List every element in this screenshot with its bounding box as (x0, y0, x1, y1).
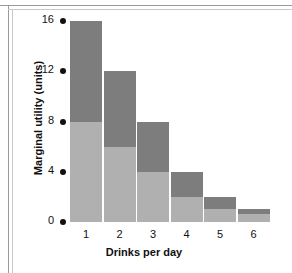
bar-5 (204, 197, 236, 222)
bar-segment-upper-4 (171, 172, 203, 197)
bar-segment-lower-1 (70, 122, 102, 223)
bar-segment-lower-2 (104, 147, 136, 222)
chart-figure: 1234560481216 Drinks per day Marginal ut… (0, 0, 292, 273)
bar-4 (171, 172, 203, 222)
x-tick-label-2: 2 (104, 228, 136, 240)
x-tick-label-5: 5 (204, 228, 236, 240)
x-tick-label-4: 4 (171, 228, 203, 240)
y-tick-dot-4 (60, 169, 66, 175)
x-axis-title: Drinks per day (64, 246, 224, 258)
bar-segment-lower-4 (171, 197, 203, 222)
y-tick-dot-12 (60, 68, 66, 74)
bar-segment-lower-5 (204, 209, 236, 222)
bar-6 (238, 209, 270, 222)
bar-segment-upper-1 (70, 21, 102, 122)
bar-segment-lower-3 (137, 172, 169, 222)
x-tick-label-6: 6 (238, 228, 270, 240)
y-tick-dot-0 (60, 219, 66, 225)
y-tick-dot-8 (60, 119, 66, 125)
bar-segment-upper-2 (104, 71, 136, 146)
bar-2 (104, 71, 136, 222)
y-axis-title: Marginal utility (units) (32, 18, 44, 218)
bar-segment-upper-3 (137, 122, 169, 172)
x-tick-label-1: 1 (70, 228, 102, 240)
bar-1 (70, 21, 102, 222)
x-tick-label-3: 3 (137, 228, 169, 240)
bar-segment-lower-6 (238, 214, 270, 222)
bar-3 (137, 122, 169, 223)
y-tick-dot-16 (60, 18, 66, 24)
bar-segment-upper-5 (204, 197, 236, 210)
